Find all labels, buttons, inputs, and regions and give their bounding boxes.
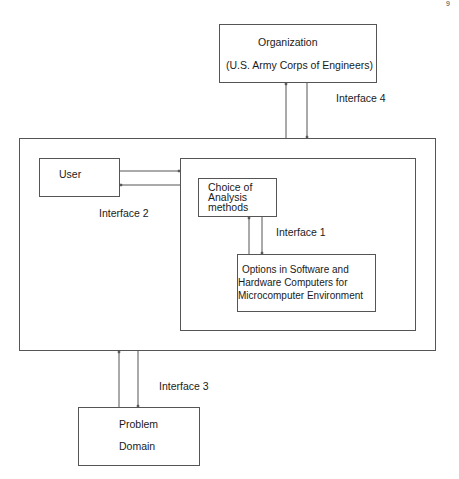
connector-arrows	[0, 0, 459, 479]
